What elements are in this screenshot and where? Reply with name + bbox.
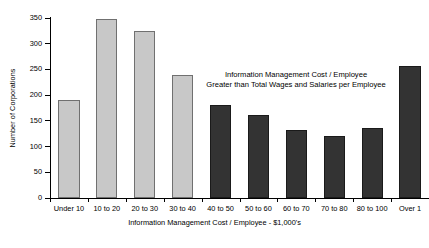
x-tick-mark [277, 198, 278, 202]
annotation-line-1: Information Management Cost / Employee [182, 70, 410, 80]
y-tick-label: 50 [2, 168, 42, 176]
bar-50-to-60 [248, 115, 269, 198]
bar-chart: Number of Corporations 05010015020025030… [0, 0, 429, 248]
y-tick-label: 100 [2, 143, 42, 151]
y-tick-label: 0 [2, 194, 42, 202]
x-tick-mark [50, 198, 51, 202]
x-tick-label: 20 to 30 [126, 204, 164, 213]
x-tick-label: 40 to 50 [202, 204, 240, 213]
x-tick-label: Under 10 [50, 204, 88, 213]
x-axis-line [46, 198, 429, 199]
x-tick-label: 70 to 80 [315, 204, 353, 213]
bar-under-10 [58, 100, 79, 198]
plot-area [50, 18, 429, 198]
bar-40-to-50 [210, 105, 231, 198]
bar-20-to-30 [134, 31, 155, 198]
x-tick-mark [164, 198, 165, 202]
y-tick-label: 300 [2, 40, 42, 48]
bar-80-to-100 [362, 128, 383, 198]
y-tick-label: 150 [2, 117, 42, 125]
x-axis-title: Information Management Cost / Employee -… [0, 218, 429, 228]
y-tick-label: 350 [2, 14, 42, 22]
x-tick-label: 10 to 20 [88, 204, 126, 213]
x-tick-label: 50 to 60 [240, 204, 278, 213]
bar-60-to-70 [286, 130, 307, 198]
bar-10-to-20 [96, 19, 117, 198]
annotation-line-2: Greater than Total Wages and Salaries pe… [182, 80, 410, 90]
x-tick-mark [88, 198, 89, 202]
x-tick-mark [353, 198, 354, 202]
y-tick-label: 200 [2, 91, 42, 99]
x-tick-mark [315, 198, 316, 202]
x-tick-mark [202, 198, 203, 202]
y-tick-label: 250 [2, 65, 42, 73]
x-tick-label: 30 to 40 [164, 204, 202, 213]
x-tick-mark [126, 198, 127, 202]
x-tick-label: 80 to 100 [353, 204, 391, 213]
chart-annotation: Information Management Cost / Employee G… [182, 70, 410, 89]
bar-30-to-40 [172, 75, 193, 198]
bar-70-to-80 [324, 136, 345, 198]
x-tick-mark [391, 198, 392, 202]
x-tick-label: 60 to 70 [277, 204, 315, 213]
x-tick-label: Over 1 [391, 204, 429, 213]
x-tick-mark [240, 198, 241, 202]
